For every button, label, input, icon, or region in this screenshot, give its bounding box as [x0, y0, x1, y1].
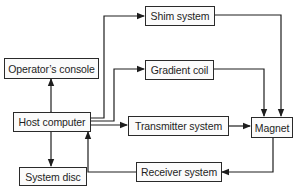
- node-transmitter-system: Transmitter system: [128, 116, 229, 136]
- arrow-magnet-to-receiver: [222, 137, 273, 172]
- node-operators-console: Operator’s console: [4, 58, 99, 79]
- node-label: Host computer: [19, 116, 86, 128]
- node-host-computer: Host computer: [13, 112, 91, 132]
- arrow-shim-to-magnet: [214, 15, 281, 116]
- node-label: Transmitter system: [135, 120, 222, 132]
- node-label: Receiver system: [141, 166, 217, 178]
- arrow-receiver-to-host: [88, 132, 136, 172]
- node-gradient-coil: Gradient coil: [145, 60, 214, 80]
- node-label: Magnet: [255, 122, 289, 134]
- node-label: Operator’s console: [8, 63, 95, 75]
- node-magnet: Magnet: [251, 117, 293, 138]
- arrow-gradient-to-magnet: [213, 69, 264, 116]
- node-label: System disc: [25, 171, 81, 183]
- node-label: Shim system: [151, 10, 210, 22]
- node-shim-system: Shim system: [145, 6, 215, 26]
- node-system-disc: System disc: [19, 167, 87, 186]
- node-receiver-system: Receiver system: [136, 162, 222, 182]
- node-label: Gradient coil: [151, 64, 209, 76]
